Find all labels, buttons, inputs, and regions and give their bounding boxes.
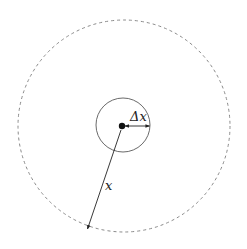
center-dot	[119, 123, 125, 129]
x-label: x	[105, 178, 113, 193]
diagram-canvas: Δx x	[0, 0, 247, 249]
delta-x-label: Δx	[129, 109, 147, 124]
